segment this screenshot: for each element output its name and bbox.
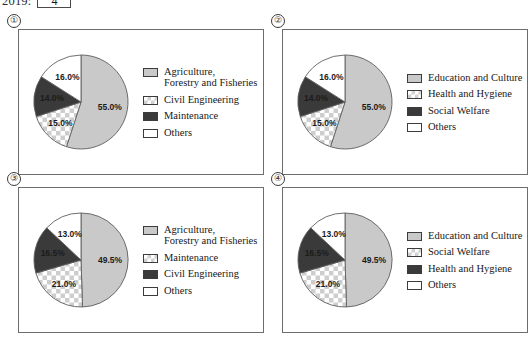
pie-slice-label: 16.5% xyxy=(41,248,66,258)
legend-4: Education and CultureSocial WelfareHealt… xyxy=(397,230,527,291)
legend-swatch-icon xyxy=(407,265,422,274)
legend-label: Education and Culture xyxy=(428,72,522,84)
legend-label: Others xyxy=(428,121,456,133)
pie-slice-label: 16.0% xyxy=(55,72,80,82)
option-number-4: ④ xyxy=(271,172,285,186)
legend-label: Social Welfare xyxy=(428,246,490,258)
legend-item: Health and Hygiene xyxy=(407,263,523,275)
option-panel-1[interactable]: ①55.0%15.0%14.0%16.0%Agriculture, Forest… xyxy=(0,14,266,176)
pie-slice-label: 15.0% xyxy=(312,118,337,128)
option-box-1[interactable]: 55.0%15.0%14.0%16.0%Agriculture, Forestr… xyxy=(18,29,264,175)
option-box-3[interactable]: 49.5%21.0%16.5%13.0%Agriculture, Forestr… xyxy=(18,187,264,333)
legend-swatch-icon xyxy=(407,107,422,116)
year-label: 2019: xyxy=(2,0,31,9)
pie-slice-label: 49.5% xyxy=(98,255,123,265)
legend-item: Health and Hygiene xyxy=(407,88,523,100)
legend-item: Agriculture, Forestry and Fisheries xyxy=(143,66,259,89)
pie-chart-4: 49.5%21.0%16.5%13.0% xyxy=(293,208,397,312)
pie-slice-label: 21.0% xyxy=(52,279,77,289)
option-number-1: ① xyxy=(7,14,21,28)
pie-slice-label: 16.0% xyxy=(319,72,344,82)
legend-label: Education and Culture xyxy=(428,230,522,242)
legend-swatch-icon xyxy=(143,270,158,279)
option-panel-4[interactable]: ④49.5%21.0%16.5%13.0%Education and Cultu… xyxy=(264,172,529,334)
option-panel-3[interactable]: ③49.5%21.0%16.5%13.0%Agriculture, Forest… xyxy=(0,172,266,334)
pie-slice-label: 13.0% xyxy=(322,229,347,239)
legend-swatch-icon xyxy=(407,281,422,290)
pie-slice-label: 49.5% xyxy=(362,255,387,265)
legend-label: Maintenance xyxy=(164,252,218,264)
pie-chart-3: 49.5%21.0%16.5%13.0% xyxy=(29,208,133,312)
pie-slice-label: 13.0% xyxy=(58,229,83,239)
legend-item: Others xyxy=(143,285,259,297)
legend-label: Agriculture, Forestry and Fisheries xyxy=(164,66,257,89)
legend-label: Civil Engineering xyxy=(164,94,239,106)
pie-slice-label: 15.0% xyxy=(48,118,73,128)
legend-swatch-icon xyxy=(143,287,158,296)
legend-swatch-icon xyxy=(143,254,158,263)
legend-item: Social Welfare xyxy=(407,246,523,258)
legend-swatch-icon xyxy=(407,232,422,241)
legend-item: Education and Culture xyxy=(407,230,523,242)
pie-slice-label: 14.0% xyxy=(304,93,329,103)
legend-swatch-icon xyxy=(143,68,158,77)
legend-swatch-icon xyxy=(407,90,422,99)
option-box-4[interactable]: 49.5%21.0%16.5%13.0%Education and Cultur… xyxy=(282,187,528,333)
option-number-2: ② xyxy=(271,14,285,28)
legend-swatch-icon xyxy=(143,226,158,235)
legend-item: Civil Engineering xyxy=(143,94,259,106)
pie-slice-label: 55.0% xyxy=(98,102,123,112)
legend-2: Education and CultureHealth and HygieneS… xyxy=(397,72,527,133)
option-panel-2[interactable]: ②55.0%15.0%14.0%16.0%Education and Cultu… xyxy=(264,14,529,176)
legend-label: Maintenance xyxy=(164,110,218,122)
legend-label: Health and Hygiene xyxy=(428,263,512,275)
legend-item: Civil Engineering xyxy=(143,268,259,280)
legend-3: Agriculture, Forestry and FisheriesMaint… xyxy=(133,224,263,297)
legend-item: Others xyxy=(143,127,259,139)
legend-swatch-icon xyxy=(407,248,422,257)
legend-label: Health and Hygiene xyxy=(428,88,512,100)
legend-swatch-icon xyxy=(407,123,422,132)
legend-label: Civil Engineering xyxy=(164,268,239,280)
legend-item: Maintenance xyxy=(143,110,259,122)
pie-slice-label: 16.5% xyxy=(305,248,330,258)
pie-slice-label: 55.0% xyxy=(362,102,387,112)
legend-item: Others xyxy=(407,279,523,291)
legend-label: Others xyxy=(428,279,456,291)
legend-label: Social Welfare xyxy=(428,105,490,117)
legend-label: Others xyxy=(164,285,192,297)
pie-chart-2: 55.0%15.0%14.0%16.0% xyxy=(293,50,397,154)
legend-swatch-icon xyxy=(143,96,158,105)
legend-item: Maintenance xyxy=(143,252,259,264)
legend-swatch-icon xyxy=(407,74,422,83)
option-number-3: ③ xyxy=(7,172,21,186)
pie-slice-label: 21.0% xyxy=(316,279,341,289)
legend-1: Agriculture, Forestry and FisheriesCivil… xyxy=(133,66,263,139)
legend-label: Others xyxy=(164,127,192,139)
legend-label: Agriculture, Forestry and Fisheries xyxy=(164,224,257,247)
year-answer-row: 2019: xyxy=(2,0,71,8)
legend-item: Others xyxy=(407,121,523,133)
legend-swatch-icon xyxy=(143,129,158,138)
legend-item: Education and Culture xyxy=(407,72,523,84)
legend-item: Social Welfare xyxy=(407,105,523,117)
legend-swatch-icon xyxy=(143,112,158,121)
pie-chart-1: 55.0%15.0%14.0%16.0% xyxy=(29,50,133,154)
option-box-2[interactable]: 55.0%15.0%14.0%16.0%Education and Cultur… xyxy=(282,29,528,175)
pie-slice-label: 14.0% xyxy=(40,93,65,103)
legend-item: Agriculture, Forestry and Fisheries xyxy=(143,224,259,247)
answer-input[interactable] xyxy=(37,0,71,8)
